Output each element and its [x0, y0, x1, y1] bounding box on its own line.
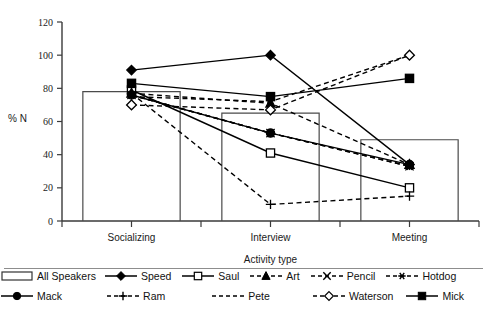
bar-all-speakers: [361, 140, 458, 221]
legend-symbol-open-square: [181, 269, 215, 283]
marker-open-square: [266, 149, 274, 157]
marker-filled-diamond: [127, 65, 136, 74]
bar-all-speakers: [83, 92, 180, 221]
legend-item-hotdog[interactable]: Hotdog: [385, 269, 456, 283]
y-tick-label: 120: [38, 17, 53, 28]
legend-item-label: Saul: [218, 270, 239, 282]
legend-row-2: MackRamPeteWatersonMick: [0, 286, 487, 306]
legend-symbol-plus: [106, 289, 140, 303]
legend-item-art[interactable]: Art: [249, 269, 299, 283]
x-tick-label: Interview: [250, 232, 291, 243]
marker-open-diamond: [405, 50, 415, 60]
legend-symbol-asterisk: [385, 269, 419, 283]
y-tick-label: 0: [48, 216, 53, 227]
legend-row-1: All SpeakersSpeedSaulArtPencilHotdog: [0, 266, 487, 286]
legend-item-mick[interactable]: Mick: [405, 289, 464, 303]
marker-filled-square: [266, 93, 274, 101]
legend-item-label: Hotdog: [422, 270, 456, 282]
legend-item-label: Art: [286, 270, 299, 282]
marker-filled-square: [127, 79, 135, 87]
x-tick-label: Socializing: [108, 232, 156, 243]
legend-item-label: Pete: [248, 290, 270, 302]
legend-item-all-speakers[interactable]: All Speakers: [0, 269, 96, 283]
legend-item-label: Ram: [143, 290, 165, 302]
marker-filled-circle: [405, 161, 413, 169]
legend-item-label: Pencil: [347, 270, 376, 282]
y-tick-label: 40: [43, 149, 53, 160]
legend-symbol-open-rectangle-outline: [0, 269, 34, 283]
legend-symbol-filled-triangle: [249, 269, 283, 283]
chart-figure: 020406080100120% NSocializingInterviewMe…: [0, 0, 487, 327]
legend-item-label: Mack: [37, 290, 62, 302]
y-axis-title: % N: [8, 113, 27, 124]
chart-plot-area: 020406080100120% NSocializingInterviewMe…: [0, 0, 487, 266]
legend-item-label: Speed: [141, 270, 171, 282]
legend-item-pete[interactable]: Pete: [211, 289, 270, 303]
legend-symbol-open-diamond: [312, 289, 346, 303]
chart-legend: All SpeakersSpeedSaulArtPencilHotdog Mac…: [0, 266, 487, 327]
legend-item-mack[interactable]: Mack: [0, 289, 62, 303]
legend-symbol-filled-circle: [0, 289, 34, 303]
x-tick-label: Meeting: [392, 232, 428, 243]
legend-item-pencil[interactable]: Pencil: [310, 269, 376, 283]
y-tick-label: 20: [43, 182, 53, 193]
legend-item-waterson[interactable]: Waterson: [312, 289, 394, 303]
marker-plus: [405, 191, 414, 200]
y-tick-label: 80: [43, 83, 53, 94]
legend-item-saul[interactable]: Saul: [181, 269, 239, 283]
marker-filled-circle: [266, 129, 274, 137]
legend-symbol-filled-square: [405, 289, 439, 303]
legend-symbol-cross-x: [310, 269, 344, 283]
legend-symbol-none: [211, 289, 245, 303]
legend-symbol-filled-diamond: [104, 269, 138, 283]
marker-filled-square: [405, 74, 413, 82]
marker-open-diamond: [127, 100, 137, 110]
legend-item-label: Mick: [442, 290, 464, 302]
y-tick-label: 60: [43, 116, 53, 127]
marker-open-square: [405, 184, 413, 192]
legend-item-ram[interactable]: Ram: [106, 289, 165, 303]
x-axis-title: Activity type: [244, 254, 298, 265]
legend-item-speed[interactable]: Speed: [104, 269, 171, 283]
y-tick-label: 100: [38, 50, 53, 61]
legend-item-label: All Speakers: [37, 270, 96, 282]
legend-item-label: Waterson: [349, 290, 394, 302]
